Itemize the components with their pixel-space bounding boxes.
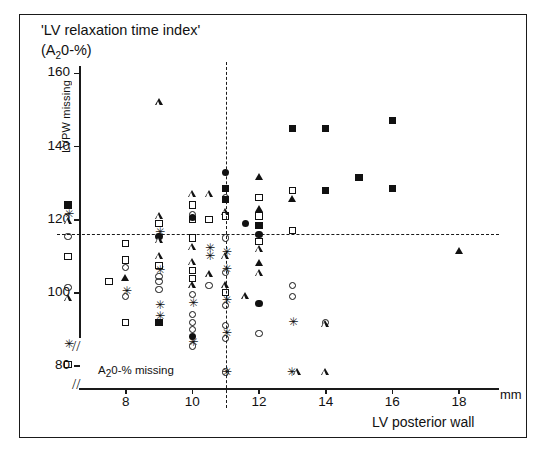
data-point-14	[155, 252, 163, 259]
a2o-prefix: A	[98, 364, 106, 376]
data-point-2	[122, 256, 129, 263]
y-axis-line	[79, 66, 81, 338]
lvpw-missing-point-4	[64, 253, 71, 260]
data-point-81	[289, 187, 296, 194]
data-point-56	[221, 252, 229, 259]
data-point-22	[155, 319, 162, 326]
data-point-24	[189, 201, 196, 208]
lvpw-missing-point-6	[64, 294, 72, 301]
data-point-47	[205, 282, 212, 289]
data-point-49	[222, 185, 229, 192]
x-axis-line	[79, 388, 499, 390]
data-point-59	[221, 281, 229, 288]
lvpw-missing-point-2	[64, 217, 72, 224]
data-point-13	[155, 236, 163, 243]
data-point-84	[289, 282, 296, 289]
y-tick-80	[74, 365, 80, 367]
data-point-41	[189, 342, 196, 349]
x-tick-label-14: 14	[309, 394, 343, 409]
a2o-suffix: 0-% missing	[111, 364, 174, 376]
data-point-70	[255, 205, 263, 212]
lvpw-missing-point-3	[64, 233, 71, 240]
data-point-53	[222, 212, 229, 219]
x-tick-label-10: 10	[175, 394, 209, 409]
data-point-23	[188, 190, 196, 197]
data-point-19	[155, 286, 162, 293]
data-point-36	[189, 311, 196, 318]
data-point-87	[322, 125, 329, 132]
chart-title-line1: 'LV relaxation time index'	[41, 22, 200, 38]
title-unit-prefix: (A	[41, 42, 56, 58]
x-tick-label-8: 8	[109, 394, 143, 409]
lvpw-missing-point-5	[64, 284, 71, 291]
data-point-83	[289, 227, 296, 234]
y-tick-140	[74, 146, 80, 148]
data-point-4	[121, 274, 129, 281]
x-tick-12	[258, 388, 260, 394]
data-point-46	[205, 270, 213, 277]
x-tick-16	[392, 388, 394, 394]
data-point-9	[155, 212, 163, 219]
data-point-68	[255, 173, 263, 180]
x-tick-14	[325, 388, 327, 394]
a2o-missing-point-1	[222, 368, 229, 375]
data-point-66	[242, 220, 249, 227]
data-point-7	[122, 319, 129, 326]
data-point-65	[222, 335, 229, 342]
data-point-29	[188, 243, 196, 250]
data-point-71	[255, 212, 262, 219]
data-point-3	[122, 264, 129, 271]
data-point-85	[289, 293, 296, 300]
data-point-35: ✳	[188, 299, 197, 308]
data-point-79	[255, 330, 262, 337]
data-point-30	[188, 258, 196, 265]
data-point-54	[222, 234, 229, 241]
data-point-94	[455, 247, 463, 254]
data-point-37	[189, 319, 196, 326]
data-point-27	[189, 216, 196, 223]
data-point-93	[389, 185, 396, 192]
lvpw-missing-label: LVPW missing	[60, 80, 72, 153]
data-point-78	[255, 300, 262, 307]
y-tick-100	[74, 292, 80, 294]
data-point-42	[205, 190, 213, 197]
data-point-43	[205, 216, 212, 223]
data-point-82	[288, 195, 296, 202]
a2o-missing-point-4	[321, 368, 329, 375]
x-tick-label-12: 12	[242, 394, 276, 409]
data-point-6	[122, 293, 129, 300]
data-point-38	[189, 326, 196, 333]
y-tick-120	[74, 219, 80, 221]
data-point-77	[255, 269, 263, 276]
data-point-80	[289, 125, 296, 132]
data-point-51	[222, 196, 229, 203]
data-point-76	[255, 259, 263, 266]
chart-canvas: 'LV relaxation time index' (A20-%) 80100…	[0, 0, 548, 456]
data-point-31	[189, 267, 196, 274]
x-tick-8	[125, 388, 127, 394]
data-point-69	[255, 194, 262, 201]
x-tick-label-16: 16	[375, 394, 409, 409]
x-tick-label-18: 18	[442, 394, 476, 409]
lvpw-missing-point-7: ✳	[64, 340, 73, 349]
x-tick-18	[458, 388, 460, 394]
data-point-73	[255, 231, 262, 238]
x-axis-unit-label: mm	[500, 387, 522, 402]
data-point-92	[389, 117, 396, 124]
data-point-62	[222, 302, 229, 309]
data-point-67	[241, 292, 249, 299]
x-axis-title: LV posterior wall	[372, 414, 474, 430]
data-point-86: ✳	[288, 318, 297, 327]
a2o-missing-point-3	[293, 368, 301, 375]
data-point-72	[255, 222, 262, 229]
y-tick-label-160: 160	[36, 64, 70, 79]
lvpw-missing-point-8	[64, 361, 71, 368]
data-point-8	[155, 98, 163, 105]
y-tick-160	[74, 73, 80, 75]
data-point-45: ✳	[205, 252, 214, 261]
data-point-33	[188, 281, 196, 288]
data-point-1	[122, 240, 129, 247]
chart-title-line2: (A20-%)	[41, 42, 92, 61]
data-point-0	[105, 278, 112, 285]
a2o-missing-label: A20-% missing	[98, 364, 174, 379]
